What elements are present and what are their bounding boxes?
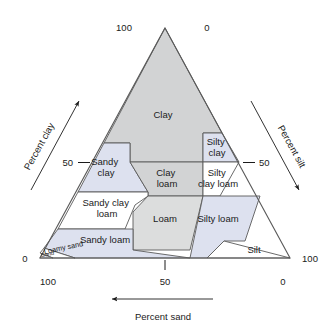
region-label-silt: Silt [247, 244, 261, 255]
tick-sand-0: 0 [280, 276, 285, 287]
region-label-sandy-loam: Sandy loam [80, 234, 130, 245]
axis-title-silt: Percent silt [276, 123, 309, 170]
tick-silt-0: 0 [204, 22, 209, 33]
axis-title-sand: Percent sand [135, 311, 191, 322]
tick-sand-100: 100 [40, 276, 56, 287]
region-label-loam: Loam [153, 213, 177, 224]
tick-silt-100: 100 [302, 253, 318, 264]
tick-clay-100: 100 [116, 22, 132, 33]
region-label-silty-clay: Silty clay [207, 136, 228, 158]
region-label-clay-loam: Clay loam [156, 167, 178, 189]
tick-silt-50: 50 [259, 157, 270, 168]
ternary-diagram-canvas: Clay Silty clay Sandy clay Clay loam Sil… [0, 0, 333, 333]
tick-sand-50: 50 [160, 276, 171, 287]
region-label-silty-loam: Silty loam [197, 213, 238, 224]
tick-clay-50: 50 [62, 157, 73, 168]
soil-texture-triangle-figure: Clay Silty clay Sandy clay Clay loam Sil… [0, 0, 333, 333]
tick-clay-0: 0 [22, 253, 27, 264]
region-label-clay: Clay [153, 109, 172, 120]
axis-title-clay: Percent clay [21, 121, 56, 172]
